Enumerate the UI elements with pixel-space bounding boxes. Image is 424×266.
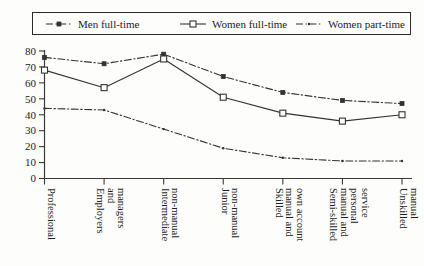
x-axis-ticks bbox=[45, 179, 403, 185]
x-axis-category-labels: ProfessionalEmployersandmanagersIntermed… bbox=[46, 188, 420, 242]
data-point-marker bbox=[220, 94, 226, 100]
data-point-marker bbox=[339, 118, 345, 124]
data-point-marker bbox=[103, 109, 105, 111]
x-axis-category-label-line: Professional bbox=[46, 188, 57, 240]
data-point-marker bbox=[43, 107, 45, 109]
x-axis-category-label: Juniornon-manual bbox=[220, 188, 242, 238]
y-tick-label: 20 bbox=[25, 140, 37, 152]
legend-label: Women part-time bbox=[328, 18, 405, 30]
x-axis-category-label: Unskilledmanual bbox=[398, 188, 420, 230]
x-axis-category-label: Semi-skilledmanual andpersonalservice bbox=[328, 188, 371, 242]
data-point-marker bbox=[42, 67, 48, 73]
series-women-full-time bbox=[42, 56, 406, 124]
y-tick-label: 0 bbox=[31, 172, 37, 184]
x-axis-category-label-line: Semi-skilled bbox=[328, 188, 339, 242]
x-axis-category-label-line: own account bbox=[295, 188, 306, 241]
chart-page: Men full-timeWomen full-timeWomen part-t… bbox=[0, 0, 424, 266]
data-point-marker bbox=[281, 90, 285, 94]
x-axis-category-label-line: Employers bbox=[95, 188, 106, 234]
y-tick-label: 50 bbox=[25, 93, 37, 105]
legend-item-men-full-time[interactable]: Men full-time bbox=[46, 18, 140, 30]
data-point-marker bbox=[221, 75, 225, 79]
data-point-marker bbox=[162, 128, 164, 130]
x-axis-category-label-line: manual and bbox=[284, 188, 295, 237]
legend: Men full-timeWomen full-timeWomen part-t… bbox=[46, 18, 405, 30]
data-series bbox=[42, 52, 406, 162]
y-tick-label: 10 bbox=[25, 156, 37, 168]
legend-label: Men full-time bbox=[78, 18, 140, 30]
legend-item-women-full-time[interactable]: Women full-time bbox=[180, 18, 287, 30]
y-tick-label: 40 bbox=[25, 109, 37, 121]
axes bbox=[45, 50, 413, 179]
y-axis-ticks: 01020304050607080 bbox=[25, 45, 45, 185]
x-axis-category-label-line: personal bbox=[349, 188, 360, 224]
data-point-marker bbox=[308, 23, 310, 25]
y-tick-label: 70 bbox=[25, 61, 37, 73]
x-axis-category-label-line: manual and bbox=[339, 188, 350, 237]
series-women-part-time bbox=[43, 107, 403, 162]
data-point-marker bbox=[43, 55, 47, 59]
x-axis-category-label-line: Skilled bbox=[274, 188, 285, 219]
data-point-marker bbox=[280, 110, 286, 116]
data-point-marker bbox=[190, 21, 196, 27]
y-tick-label: 60 bbox=[25, 77, 37, 89]
x-axis-category-label-line: managers bbox=[116, 188, 127, 228]
data-point-marker bbox=[399, 112, 405, 118]
legend-label: Women full-time bbox=[212, 18, 287, 30]
data-point-marker bbox=[222, 147, 224, 149]
x-axis-category-label-line: Unskilled bbox=[398, 188, 409, 230]
legend-item-women-part-time[interactable]: Women part-time bbox=[296, 18, 405, 30]
x-axis-category-label: Professional bbox=[46, 188, 57, 240]
y-tick-label: 80 bbox=[25, 45, 37, 57]
series-line bbox=[45, 59, 403, 121]
x-axis-category-label: Skilledmanual andown account bbox=[274, 188, 306, 241]
data-point-marker bbox=[401, 160, 403, 162]
data-point-marker bbox=[102, 62, 106, 66]
line-chart: Men full-timeWomen full-timeWomen part-t… bbox=[0, 0, 424, 266]
x-axis-category-label-line: service bbox=[360, 188, 371, 218]
data-point-marker bbox=[282, 157, 284, 159]
data-point-marker bbox=[340, 98, 344, 102]
x-axis-category-label-line: and bbox=[106, 188, 117, 204]
data-point-marker bbox=[101, 85, 107, 91]
data-point-marker bbox=[341, 160, 343, 162]
x-axis-category-label: Intermediatenon-manual bbox=[160, 188, 182, 241]
data-point-marker bbox=[161, 56, 167, 62]
data-point-marker bbox=[57, 22, 61, 26]
data-point-marker bbox=[400, 102, 404, 106]
x-axis-category-label-line: non-manual bbox=[230, 188, 241, 238]
x-axis-category-label: Employersandmanagers bbox=[95, 188, 127, 234]
x-axis-category-label-line: Junior bbox=[220, 188, 231, 215]
series-line bbox=[45, 108, 403, 161]
x-axis-category-label-line: Intermediate bbox=[160, 188, 171, 241]
x-axis-category-label-line: non-manual bbox=[170, 188, 181, 238]
x-axis-category-label-line: manual bbox=[409, 188, 420, 219]
y-tick-label: 30 bbox=[25, 124, 37, 136]
